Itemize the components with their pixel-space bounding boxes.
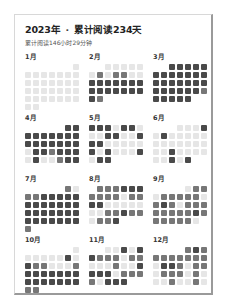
- day-cell[interactable]: [185, 279, 191, 285]
- day-cell[interactable]: [33, 210, 39, 216]
- day-cell[interactable]: [121, 64, 127, 70]
- day-cell[interactable]: [33, 218, 39, 224]
- day-cell[interactable]: [161, 202, 167, 208]
- day-cell[interactable]: [73, 125, 79, 131]
- day-cell[interactable]: [89, 157, 95, 163]
- day-cell[interactable]: [25, 141, 31, 147]
- day-cell[interactable]: [33, 96, 39, 102]
- day-cell[interactable]: [161, 255, 167, 261]
- day-cell[interactable]: [25, 133, 31, 139]
- day-cell[interactable]: [185, 149, 191, 155]
- day-cell[interactable]: [113, 149, 119, 155]
- day-cell[interactable]: [41, 72, 47, 78]
- day-cell[interactable]: [97, 279, 103, 285]
- day-cell[interactable]: [33, 287, 39, 293]
- day-cell[interactable]: [185, 255, 191, 261]
- day-cell[interactable]: [57, 210, 63, 216]
- day-cell[interactable]: [185, 263, 191, 269]
- day-cell[interactable]: [137, 186, 143, 192]
- day-cell[interactable]: [25, 279, 31, 285]
- day-cell[interactable]: [97, 80, 103, 86]
- day-cell[interactable]: [105, 125, 111, 131]
- day-cell[interactable]: [49, 279, 55, 285]
- day-cell[interactable]: [73, 141, 79, 147]
- day-cell[interactable]: [57, 88, 63, 94]
- day-cell[interactable]: [73, 133, 79, 139]
- day-cell[interactable]: [193, 149, 199, 155]
- day-cell[interactable]: [121, 133, 127, 139]
- day-cell[interactable]: [113, 194, 119, 200]
- day-cell[interactable]: [57, 271, 63, 277]
- day-cell[interactable]: [153, 255, 159, 261]
- day-cell[interactable]: [41, 96, 47, 102]
- day-cell[interactable]: [89, 133, 95, 139]
- day-cell[interactable]: [97, 125, 103, 131]
- day-cell[interactable]: [137, 80, 143, 86]
- day-cell[interactable]: [185, 210, 191, 216]
- day-cell[interactable]: [153, 88, 159, 94]
- day-cell[interactable]: [185, 218, 191, 224]
- day-cell[interactable]: [89, 263, 95, 269]
- day-cell[interactable]: [193, 125, 199, 131]
- day-cell[interactable]: [73, 149, 79, 155]
- day-cell[interactable]: [113, 125, 119, 131]
- day-cell[interactable]: [57, 80, 63, 86]
- day-cell[interactable]: [33, 157, 39, 163]
- day-cell[interactable]: [193, 141, 199, 147]
- day-cell[interactable]: [201, 271, 207, 277]
- day-cell[interactable]: [177, 149, 183, 155]
- day-cell[interactable]: [49, 141, 55, 147]
- day-cell[interactable]: [113, 279, 119, 285]
- day-cell[interactable]: [97, 194, 103, 200]
- day-cell[interactable]: [113, 247, 119, 253]
- day-cell[interactable]: [73, 247, 79, 253]
- day-cell[interactable]: [89, 80, 95, 86]
- day-cell[interactable]: [57, 218, 63, 224]
- day-cell[interactable]: [49, 218, 55, 224]
- day-cell[interactable]: [41, 149, 47, 155]
- day-cell[interactable]: [33, 194, 39, 200]
- day-cell[interactable]: [129, 141, 135, 147]
- day-cell[interactable]: [89, 88, 95, 94]
- day-cell[interactable]: [25, 149, 31, 155]
- day-cell[interactable]: [177, 218, 183, 224]
- day-cell[interactable]: [105, 255, 111, 261]
- day-cell[interactable]: [137, 194, 143, 200]
- day-cell[interactable]: [121, 202, 127, 208]
- day-cell[interactable]: [153, 157, 159, 163]
- day-cell[interactable]: [161, 218, 167, 224]
- day-cell[interactable]: [161, 133, 167, 139]
- day-cell[interactable]: [169, 133, 175, 139]
- day-cell[interactable]: [169, 279, 175, 285]
- day-cell[interactable]: [97, 133, 103, 139]
- day-cell[interactable]: [121, 149, 127, 155]
- day-cell[interactable]: [177, 72, 183, 78]
- day-cell[interactable]: [177, 125, 183, 131]
- day-cell[interactable]: [169, 202, 175, 208]
- day-cell[interactable]: [169, 218, 175, 224]
- day-cell[interactable]: [65, 88, 71, 94]
- day-cell[interactable]: [33, 88, 39, 94]
- day-cell[interactable]: [33, 72, 39, 78]
- day-cell[interactable]: [41, 210, 47, 216]
- day-cell[interactable]: [97, 202, 103, 208]
- day-cell[interactable]: [25, 157, 31, 163]
- day-cell[interactable]: [65, 194, 71, 200]
- day-cell[interactable]: [25, 96, 31, 102]
- day-cell[interactable]: [105, 133, 111, 139]
- day-cell[interactable]: [97, 210, 103, 216]
- day-cell[interactable]: [153, 80, 159, 86]
- day-cell[interactable]: [201, 279, 207, 285]
- day-cell[interactable]: [201, 64, 207, 70]
- day-cell[interactable]: [41, 202, 47, 208]
- day-cell[interactable]: [49, 255, 55, 261]
- day-cell[interactable]: [73, 271, 79, 277]
- day-cell[interactable]: [25, 226, 31, 232]
- day-cell[interactable]: [161, 271, 167, 277]
- day-cell[interactable]: [89, 125, 95, 131]
- day-cell[interactable]: [201, 125, 207, 131]
- day-cell[interactable]: [129, 194, 135, 200]
- day-cell[interactable]: [169, 271, 175, 277]
- day-cell[interactable]: [193, 271, 199, 277]
- day-cell[interactable]: [105, 72, 111, 78]
